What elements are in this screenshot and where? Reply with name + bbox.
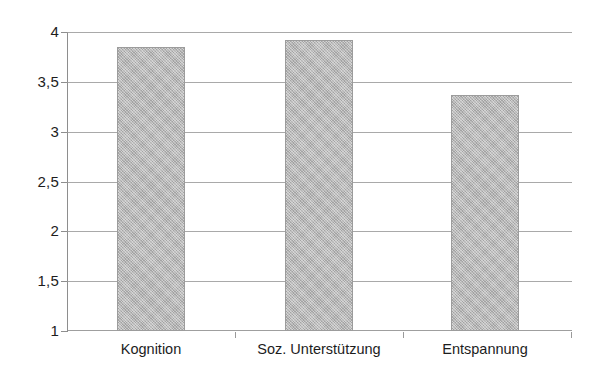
y-tick-label-1: 1 [0, 323, 59, 338]
bar-kognition [117, 47, 185, 331]
y-tick-label-3-5: 3,5 [0, 74, 59, 89]
y-tick-label-1-5: 1,5 [0, 273, 59, 288]
bar-entspannung [451, 95, 519, 331]
x-label-kognition: Kognition [81, 340, 221, 358]
bar-soz-unterstuetzung [285, 40, 353, 331]
plot-area [67, 32, 572, 331]
gridline-4 [67, 32, 572, 33]
y-axis-tick-labels: 4 3,5 3 2,5 2 1,5 1 [0, 0, 59, 384]
y-tick-label-4: 4 [0, 24, 59, 39]
x-label-entspannung: Entspannung [405, 340, 565, 358]
x-axis-divider-tick-1 [235, 332, 236, 338]
bar-chart: 4 3,5 3 2,5 2 1,5 1 Kognition Soz. Unter… [0, 0, 600, 384]
y-tick-label-2: 2 [0, 223, 59, 238]
y-tick-label-2-5: 2,5 [0, 174, 59, 189]
x-axis-divider-tick-2 [403, 332, 404, 338]
x-label-soz-unterstuetzung: Soz. Unterstützung [239, 340, 399, 358]
y-axis-tick-1 [61, 331, 67, 332]
y-tick-label-3: 3 [0, 124, 59, 139]
x-axis-end-tick [571, 332, 572, 338]
